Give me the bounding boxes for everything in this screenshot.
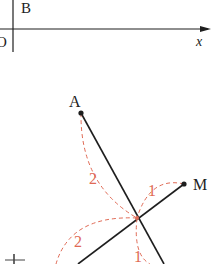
arc-label-2-lower: 2 bbox=[74, 233, 82, 250]
line-through-m bbox=[78, 184, 184, 264]
label-a: A bbox=[69, 93, 81, 110]
point-a bbox=[78, 110, 83, 115]
label-x: x bbox=[195, 34, 203, 49]
point-m bbox=[181, 181, 186, 186]
x-axis-arrow-icon bbox=[200, 26, 211, 32]
dashed-arc-m bbox=[137, 183, 184, 218]
arc-label-1-upper: 1 bbox=[148, 182, 156, 199]
label-b: B bbox=[21, 0, 31, 16]
geometry-diagram: B O x A M 2 1 2 1 bbox=[0, 0, 215, 264]
partial-symbol-icon bbox=[5, 254, 25, 264]
arc-label-2-upper: 2 bbox=[89, 170, 97, 187]
folding-figure: A M 2 1 2 1 bbox=[5, 93, 207, 264]
label-m: M bbox=[193, 176, 207, 193]
dashed-arc-lower-left bbox=[56, 218, 137, 264]
arc-label-1-lower: 1 bbox=[134, 248, 142, 264]
label-o: O bbox=[0, 34, 7, 50]
coordinate-axes: B O x bbox=[0, 0, 211, 52]
intersection-point bbox=[135, 216, 139, 220]
